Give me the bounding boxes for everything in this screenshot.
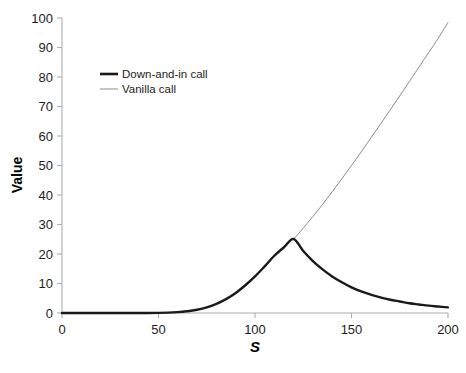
x-tick-label: 200 — [437, 322, 459, 337]
chart-legend: Down-and-in callVanilla call — [100, 68, 208, 95]
x-tick-label: 50 — [151, 322, 165, 337]
y-axis-title: Value — [9, 157, 25, 194]
y-tick-label: 50 — [39, 158, 53, 173]
y-tick-label: 70 — [39, 99, 53, 114]
y-tick-label: 60 — [39, 129, 53, 144]
y-tick-label: 0 — [46, 306, 53, 321]
y-tick-label: 20 — [39, 247, 53, 262]
figure-container: 0102030405060708090100 050100150200 Down… — [0, 0, 466, 373]
axes-group — [62, 18, 448, 313]
y-tick-label: 90 — [39, 40, 53, 55]
y-tick-label: 100 — [31, 11, 53, 26]
y-tick-label: 40 — [39, 188, 53, 203]
x-axis-tick-labels: 050100150200 — [58, 322, 458, 337]
x-tick-label: 150 — [341, 322, 363, 337]
y-axis-tick-labels: 0102030405060708090100 — [31, 11, 53, 321]
y-tick-label: 30 — [39, 217, 53, 232]
y-tick-label: 80 — [39, 70, 53, 85]
series-lines — [62, 22, 448, 313]
legend-label-1: Vanilla call — [122, 83, 176, 95]
y-axis-ticks — [57, 18, 62, 313]
x-tick-label: 0 — [58, 322, 65, 337]
line-chart: 0102030405060708090100 050100150200 Down… — [0, 0, 466, 373]
x-tick-label: 100 — [244, 322, 266, 337]
x-axis-title: S — [250, 338, 260, 355]
y-tick-label: 10 — [39, 276, 53, 291]
legend-label-0: Down-and-in call — [122, 68, 208, 80]
series-line-down-and-in-call — [62, 239, 448, 313]
series-line-vanilla-call — [62, 22, 448, 313]
